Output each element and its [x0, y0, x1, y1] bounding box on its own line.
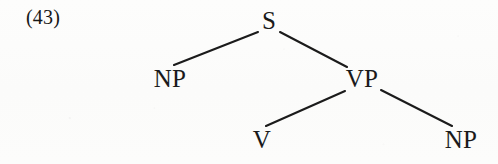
branch-s-to-np: [174, 32, 258, 65]
branch-vp-to-v: [266, 91, 345, 126]
branch-s-to-vp: [280, 32, 347, 67]
tree-node-np-subject: NP: [154, 65, 186, 92]
branch-vp-to-np: [381, 90, 452, 126]
figure-page: (43) S NP VP V NP: [0, 0, 498, 164]
tree-node-s: S: [262, 7, 276, 34]
syntax-tree-diagram: S NP VP V NP: [0, 0, 498, 164]
tree-node-v: V: [253, 126, 271, 153]
tree-node-np-object: NP: [445, 126, 477, 153]
tree-node-vp: VP: [346, 65, 378, 92]
